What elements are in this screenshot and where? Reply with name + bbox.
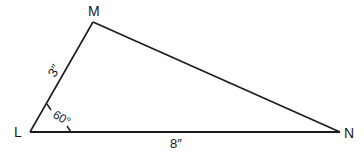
side-label-ln: 8″	[170, 136, 182, 151]
angle-label-l: 60°	[51, 107, 74, 128]
vertex-label-m: M	[88, 3, 100, 19]
vertex-label-n: N	[344, 125, 354, 141]
triangle-diagram: L M N 3″ 8″ 60°	[0, 0, 364, 153]
diagram-svg: L M N 3″ 8″ 60°	[0, 0, 364, 153]
vertex-label-l: L	[14, 124, 22, 140]
side-mn	[93, 22, 340, 132]
angle-tick-lm	[47, 104, 51, 110]
